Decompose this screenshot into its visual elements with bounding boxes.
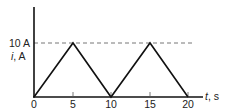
reference-label: 10 A — [9, 37, 30, 49]
x-axis-unit: , s — [208, 90, 219, 102]
triangular-current-chart: 10 A i, A 0 5 10 15 20 t, s — [0, 0, 228, 112]
x-tick-label-10: 10 — [105, 98, 117, 110]
x-tick-label-0: 0 — [31, 98, 37, 110]
x-axis-label: t, s — [205, 90, 219, 102]
x-tick-label-15: 15 — [144, 98, 156, 110]
y-axis-unit: , A — [13, 50, 25, 62]
current-waveform — [34, 43, 188, 97]
x-tick-label-20: 20 — [182, 98, 194, 110]
x-tick-label-5: 5 — [70, 98, 76, 110]
y-axis-label: i, A — [11, 50, 26, 62]
